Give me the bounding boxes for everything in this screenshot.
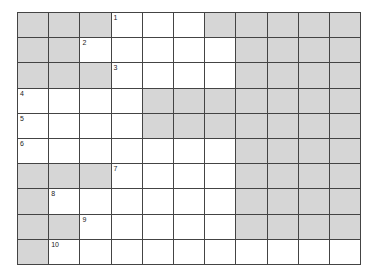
block-cell [80,63,111,88]
answer-cell[interactable] [174,240,205,265]
answer-cell[interactable] [80,89,111,114]
block-cell [49,13,80,38]
answer-cell[interactable] [205,63,236,88]
block-cell [236,189,267,214]
answer-cell[interactable] [268,240,299,265]
answer-cell[interactable] [174,13,205,38]
answer-cell[interactable]: 7 [112,164,143,189]
answer-cell[interactable] [143,139,174,164]
answer-cell[interactable] [112,215,143,240]
block-cell [330,13,361,38]
answer-cell[interactable]: 10 [49,240,80,265]
clue-number: 1 [114,14,118,22]
block-cell [236,139,267,164]
answer-cell[interactable]: 4 [18,89,49,114]
answer-cell[interactable] [112,114,143,139]
answer-cell[interactable]: 3 [112,63,143,88]
answer-cell[interactable]: 9 [80,215,111,240]
block-cell [299,63,330,88]
block-cell [80,164,111,189]
block-cell [330,89,361,114]
answer-cell[interactable] [205,189,236,214]
block-cell [18,240,49,265]
clue-number: 8 [51,190,55,198]
block-cell [268,215,299,240]
block-cell [236,63,267,88]
block-cell [330,189,361,214]
answer-cell[interactable] [143,189,174,214]
block-cell [330,215,361,240]
clue-number: 5 [20,115,24,123]
answer-cell[interactable]: 1 [112,13,143,38]
answer-cell[interactable]: 8 [49,189,80,214]
answer-cell[interactable] [205,139,236,164]
answer-cell[interactable] [174,63,205,88]
answer-cell[interactable] [205,215,236,240]
answer-cell[interactable]: 5 [18,114,49,139]
answer-cell[interactable] [80,189,111,214]
answer-cell[interactable] [236,240,267,265]
block-cell [18,164,49,189]
answer-cell[interactable] [143,38,174,63]
answer-cell[interactable]: 2 [80,38,111,63]
clue-number: 7 [114,165,118,173]
answer-cell[interactable] [143,215,174,240]
block-cell [268,38,299,63]
block-cell [205,13,236,38]
block-cell [299,114,330,139]
answer-cell[interactable] [112,38,143,63]
answer-cell[interactable] [205,164,236,189]
answer-cell[interactable] [205,38,236,63]
answer-cell[interactable] [49,89,80,114]
answer-cell[interactable] [80,139,111,164]
block-cell [49,215,80,240]
block-cell [299,215,330,240]
block-cell [236,114,267,139]
block-cell [268,139,299,164]
answer-cell[interactable] [174,164,205,189]
block-cell [174,89,205,114]
block-cell [299,139,330,164]
answer-cell[interactable] [174,215,205,240]
answer-cell[interactable] [205,240,236,265]
block-cell [205,114,236,139]
answer-cell[interactable] [143,240,174,265]
answer-cell[interactable] [143,13,174,38]
answer-cell[interactable] [80,114,111,139]
block-cell [330,38,361,63]
block-cell [236,89,267,114]
answer-cell[interactable] [143,63,174,88]
answer-cell[interactable] [112,89,143,114]
block-cell [330,139,361,164]
block-cell [174,114,205,139]
clue-number: 3 [114,64,118,72]
answer-cell[interactable] [174,139,205,164]
answer-cell[interactable] [174,38,205,63]
block-cell [236,215,267,240]
answer-cell[interactable] [299,240,330,265]
block-cell [299,164,330,189]
answer-cell[interactable] [143,164,174,189]
answer-cell[interactable] [112,139,143,164]
clue-number: 9 [82,216,86,224]
answer-cell[interactable] [330,240,361,265]
answer-cell[interactable] [80,240,111,265]
crossword-grid: 12345678910 [17,12,361,265]
answer-cell[interactable] [49,139,80,164]
block-cell [268,89,299,114]
answer-cell[interactable] [112,189,143,214]
answer-cell[interactable] [112,240,143,265]
block-cell [49,164,80,189]
block-cell [49,38,80,63]
block-cell [18,63,49,88]
block-cell [18,38,49,63]
block-cell [268,63,299,88]
answer-cell[interactable]: 6 [18,139,49,164]
block-cell [299,89,330,114]
block-cell [143,114,174,139]
block-cell [330,164,361,189]
answer-cell[interactable] [49,114,80,139]
block-cell [330,114,361,139]
block-cell [18,189,49,214]
answer-cell[interactable] [174,189,205,214]
